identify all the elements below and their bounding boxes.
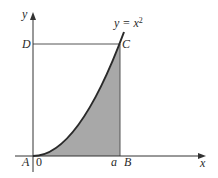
- curve-label-exponent: 2: [139, 16, 143, 25]
- area-under-parabola-diagram: y x D C A B 0 a y = x2: [0, 0, 218, 178]
- point-d-label: D: [21, 37, 31, 51]
- point-c-label: C: [122, 37, 131, 51]
- curve-label-base: y = x: [113, 16, 139, 30]
- origin-tick-label: 0: [36, 155, 42, 169]
- a-tick-label: a: [111, 155, 117, 169]
- point-a-label: A: [21, 155, 30, 169]
- y-axis-label: y: [21, 7, 28, 21]
- point-b-label: B: [124, 155, 132, 169]
- curve-label: y = x2: [113, 16, 143, 30]
- x-axis-label: x: [199, 156, 206, 170]
- y-axis-arrow-icon: [30, 12, 36, 20]
- shaded-area: [33, 44, 120, 156]
